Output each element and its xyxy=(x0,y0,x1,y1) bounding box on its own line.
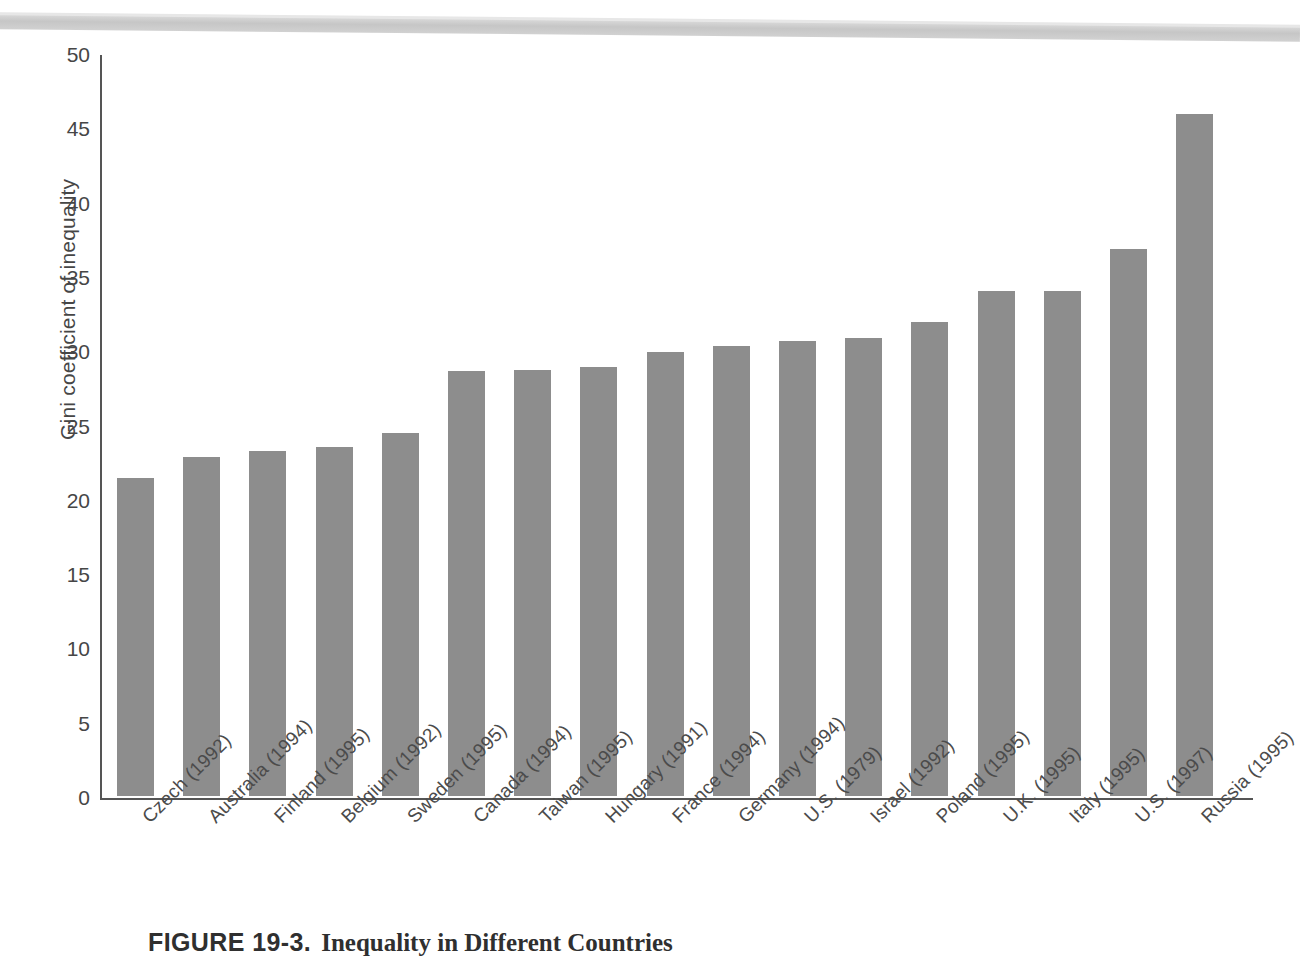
y-tick-label: 50 xyxy=(67,43,90,67)
bar xyxy=(117,478,154,796)
y-axis-line xyxy=(100,55,102,799)
y-tick-label: 40 xyxy=(67,192,90,216)
bar xyxy=(1044,291,1081,796)
bar xyxy=(978,291,1015,796)
y-tick-label: 25 xyxy=(67,415,90,439)
figure-number: FIGURE 19-3. xyxy=(148,928,311,956)
y-tick-label: 20 xyxy=(67,489,90,513)
y-tick-label: 15 xyxy=(67,563,90,587)
bar xyxy=(911,322,948,796)
y-tick-label: 5 xyxy=(78,712,90,736)
y-axis-title: Gini coefficient of inequality xyxy=(56,180,80,440)
bar xyxy=(514,370,551,796)
bar xyxy=(580,367,617,796)
y-tick-label: 35 xyxy=(67,266,90,290)
bar xyxy=(779,341,816,796)
figure-caption: FIGURE 19-3.Inequality in Different Coun… xyxy=(148,928,673,957)
bar xyxy=(1110,249,1147,796)
y-tick-label: 10 xyxy=(67,637,90,661)
y-tick-label: 30 xyxy=(67,340,90,364)
figure-caption-text: Inequality in Different Countries xyxy=(321,929,673,956)
plot-area: 05101520253035404550 Czech (1992)Austral… xyxy=(100,55,1253,798)
bar xyxy=(647,352,684,796)
bar xyxy=(713,346,750,796)
bar xyxy=(845,338,882,796)
bar xyxy=(448,371,485,796)
y-tick-label: 0 xyxy=(78,786,90,810)
bar xyxy=(1176,114,1213,796)
y-tick-label: 45 xyxy=(67,117,90,141)
